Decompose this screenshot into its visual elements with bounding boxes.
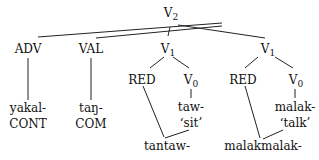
node-v0-right: V0 <box>289 73 303 87</box>
leaf-right-result: malakmalak- <box>224 139 301 153</box>
leaf-val-form: taŋ- <box>79 101 103 115</box>
edge-glossleft-result <box>165 130 189 138</box>
node-v1-left: V1 <box>161 42 175 56</box>
leaf-v0-left-gloss: ‘sit’ <box>180 116 202 130</box>
edge-v1right-v0 <box>275 57 293 68</box>
leaf-v0-right-gloss: ‘talk’ <box>280 116 311 130</box>
leaf-val-gloss: COM <box>75 117 106 131</box>
edge-v1left-red <box>150 57 164 68</box>
node-v0-left: V0 <box>184 73 198 87</box>
edge-v2-v1right <box>178 25 265 38</box>
node-v1-right: V1 <box>261 42 275 56</box>
leaf-left-result: tantaw- <box>144 139 190 153</box>
node-adv: ADV <box>15 42 42 56</box>
edge-v1right-red <box>245 57 258 68</box>
leaf-v0-right-form: malak- <box>275 100 316 114</box>
node-red-right: RED <box>229 73 256 87</box>
edge-v1left-v0 <box>173 57 189 68</box>
leaf-adv-gloss: CONT <box>9 117 47 131</box>
leaf-adv-form: yakal- <box>10 101 46 115</box>
edge-redleft-result <box>143 86 164 137</box>
leaf-v0-left-form: taw- <box>178 100 204 114</box>
node-v2: V2 <box>164 6 178 20</box>
node-red-left: RED <box>128 73 155 87</box>
tree-edges <box>0 0 319 160</box>
node-val: VAL <box>79 42 104 56</box>
edge-glossright-result <box>263 130 283 139</box>
edge-redright-result <box>245 86 260 138</box>
